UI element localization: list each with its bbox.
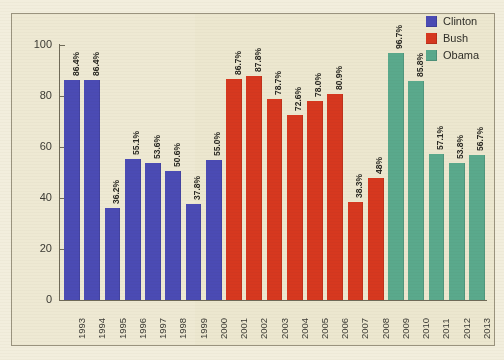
legend-swatch-obama: [426, 50, 437, 61]
x-tick-label-2008: 2008: [380, 318, 391, 339]
bar-1996[interactable]: [125, 159, 141, 300]
bar-value-label: 87.8%: [253, 48, 263, 72]
bar-value-label: 78.7%: [273, 71, 283, 95]
x-tick-label-2011: 2011: [440, 319, 451, 339]
chart-screenshot: 020406080100 86.4%86.4%36.2%55.1%53.6%50…: [0, 0, 504, 360]
x-tick-label-2013: 2013: [481, 318, 492, 339]
y-tick-label: 20: [18, 243, 52, 253]
bar-value-label: 55.1%: [131, 131, 141, 155]
bar-value-label: 85.8%: [415, 53, 425, 77]
bar-value-label: 37.8%: [192, 176, 202, 200]
bar-2004[interactable]: [287, 115, 303, 300]
bar-2008[interactable]: [368, 178, 384, 300]
y-tick-label: 60: [18, 141, 52, 151]
x-axis-line: [59, 300, 487, 301]
bar-2011[interactable]: [429, 154, 445, 300]
y-tick-label: 40: [18, 192, 52, 202]
x-tick-label-2000: 2000: [218, 318, 229, 339]
x-tick-label-1995: 1995: [117, 318, 128, 339]
legend-item-bush[interactable]: Bush: [426, 33, 479, 44]
bar-2005[interactable]: [307, 101, 323, 300]
bar-2010[interactable]: [408, 81, 424, 300]
x-tick-label-2001: 2001: [238, 318, 249, 339]
bar-2001[interactable]: [226, 79, 242, 300]
y-tick: [59, 45, 65, 46]
bar-2012[interactable]: [449, 163, 465, 300]
bar-value-label: 96.7%: [394, 25, 404, 49]
bar-value-label: 53.8%: [455, 135, 465, 159]
bar-value-label: 72.6%: [293, 87, 303, 111]
x-tick-label-2010: 2010: [420, 318, 431, 339]
x-tick-label-2007: 2007: [359, 318, 370, 339]
bar-1998[interactable]: [165, 171, 181, 300]
y-axis-line: [59, 44, 60, 301]
bar-1995[interactable]: [105, 208, 121, 300]
x-tick-label-2003: 2003: [279, 318, 290, 339]
legend-swatch-bush: [426, 33, 437, 44]
chart-legend: Clinton Bush Obama: [426, 16, 479, 61]
x-tick-label-1999: 1999: [198, 318, 209, 339]
bar-value-label: 56.7%: [475, 127, 485, 151]
x-tick-label-1997: 1997: [157, 318, 168, 339]
bar-2003[interactable]: [267, 99, 283, 300]
x-tick-label-1998: 1998: [177, 318, 188, 339]
x-tick-label-1994: 1994: [96, 318, 107, 339]
bar-1994[interactable]: [84, 80, 100, 300]
bar-value-label: 86.7%: [233, 51, 243, 75]
bar-value-label: 55.0%: [212, 132, 222, 156]
x-tick-label-2009: 2009: [400, 318, 411, 339]
bar-value-label: 80.9%: [334, 66, 344, 90]
x-tick-label-1993: 1993: [76, 318, 87, 339]
x-tick-label-2005: 2005: [319, 318, 330, 339]
legend-label-clinton: Clinton: [443, 16, 477, 27]
bar-value-label: 86.4%: [71, 52, 81, 76]
bar-1999[interactable]: [186, 204, 202, 300]
bar-2009[interactable]: [388, 53, 404, 300]
bar-value-label: 38.3%: [354, 174, 364, 198]
legend-swatch-clinton: [426, 16, 437, 27]
x-tick-label-2004: 2004: [299, 318, 310, 339]
x-tick-label-2006: 2006: [339, 318, 350, 339]
bar-value-label: 86.4%: [91, 52, 101, 76]
bar-value-label: 36.2%: [111, 180, 121, 204]
x-tick-label-1996: 1996: [137, 318, 148, 339]
bar-2000[interactable]: [206, 160, 222, 300]
legend-item-obama[interactable]: Obama: [426, 50, 479, 61]
y-tick-label: 0: [18, 294, 52, 304]
x-tick-label-2012: 2012: [461, 318, 472, 339]
bar-1993[interactable]: [64, 80, 80, 300]
y-tick: [59, 300, 65, 301]
bar-value-label: 78.0%: [313, 73, 323, 97]
bar-2013[interactable]: [469, 155, 485, 300]
y-tick-label: 100: [18, 39, 52, 49]
bar-value-label: 57.1%: [435, 126, 445, 150]
legend-item-clinton[interactable]: Clinton: [426, 16, 479, 27]
bar-value-label: 50.6%: [172, 143, 182, 167]
x-tick-label-2002: 2002: [258, 318, 269, 339]
y-tick-label: 80: [18, 90, 52, 100]
bar-1997[interactable]: [145, 163, 161, 300]
bar-value-label: 53.6%: [152, 135, 162, 159]
legend-label-obama: Obama: [443, 50, 479, 61]
bar-2006[interactable]: [327, 94, 343, 300]
bar-2002[interactable]: [246, 76, 262, 300]
bar-value-label: 48%: [374, 157, 384, 174]
bar-2007[interactable]: [348, 202, 364, 300]
legend-label-bush: Bush: [443, 33, 468, 44]
